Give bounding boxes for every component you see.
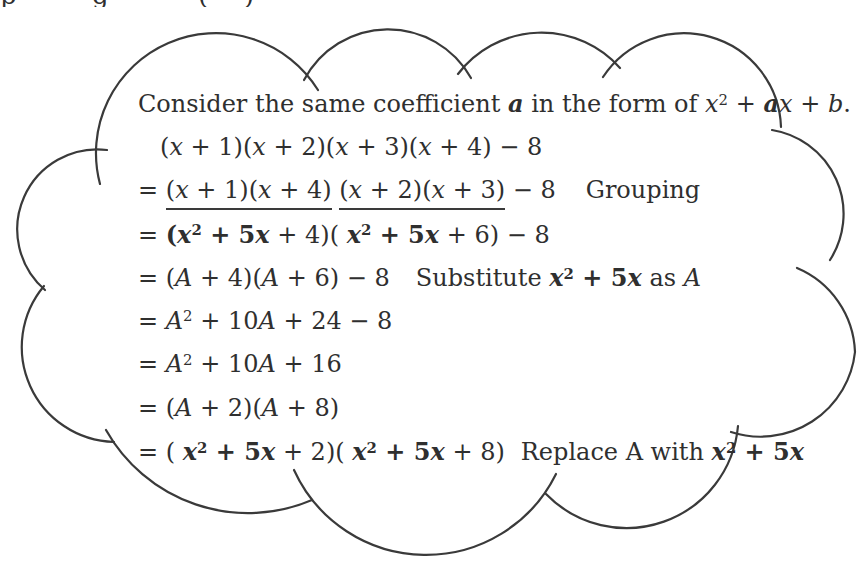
math-line-7: = A2 + 10A + 16 (138, 343, 838, 387)
math-line-3: = (x + 1)(x + 4) (x + 2)(x + 3) − 8Group… (138, 169, 838, 213)
math-line-4: = (x2 + 5x + 4)( x2 + 5x + 6) − 8 (138, 213, 838, 257)
math-line-2: (x + 1)(x + 2)(x + 3)(x + 4) − 8 (138, 126, 838, 170)
math-line-5: = (A + 4)(A + 6) − 8Substitute x2 + 5x a… (138, 256, 838, 300)
math-line-1: Consider the same coefficient a in the f… (138, 82, 838, 126)
cloud-bump-top-3 (458, 33, 620, 74)
cloud-bump-top-2 (304, 29, 471, 80)
math-line-6: = A2 + 10A + 24 − 8 (138, 300, 838, 344)
math-line-8: = (A + 2)(A + 8) (138, 387, 838, 431)
cloud-bump-bottom-2 (294, 470, 556, 555)
cloud-math-content: Consider the same coefficient a in the f… (138, 82, 838, 474)
math-line-9: = ( x2 + 5x + 2)( x2 + 5x + 8)Replace A … (138, 430, 838, 474)
cloud-bump-left-2 (17, 149, 107, 290)
cloud-bump-left-1 (22, 286, 114, 442)
